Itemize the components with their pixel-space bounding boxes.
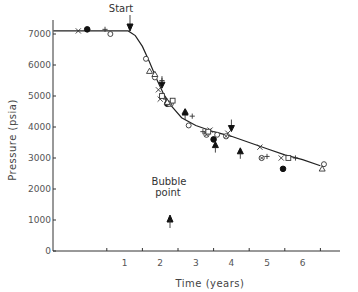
x-tick-label: 5 (264, 258, 270, 268)
filled-circle-marker (280, 166, 286, 172)
y-tick-label: 3000 (28, 153, 51, 163)
filled-circle-marker (84, 27, 90, 33)
x-tick-label: 2 (157, 258, 163, 268)
square-marker (286, 156, 291, 161)
square-marker (160, 94, 165, 99)
y-tick-label: 4000 (28, 122, 51, 132)
plus-marker (293, 155, 298, 160)
arrow-up-marker (237, 148, 243, 154)
start-arrow-head-icon (127, 24, 133, 31)
open-circle-marker (108, 32, 113, 37)
pressure-vs-time-chart: 01000200030004000500060007000123456 Time… (0, 0, 358, 292)
bubble-point-label-line2: point (155, 187, 181, 198)
cross-marker (156, 87, 161, 92)
y-tick-label: 7000 (28, 29, 51, 39)
open-circle-marker (215, 132, 220, 137)
y-tick-label: 6000 (28, 60, 51, 70)
square-marker (206, 129, 211, 134)
y-axis-label: Pressure (psia) (7, 99, 18, 181)
open-circle-marker (186, 123, 191, 128)
plus-marker (190, 114, 195, 119)
open-circle-marker (143, 56, 148, 61)
fitted-curve-path (53, 31, 320, 166)
data-points (76, 27, 327, 172)
y-tick-label: 0 (45, 246, 51, 256)
x-tick-label: 3 (193, 258, 199, 268)
axes: 01000200030004000500060007000123456 (28, 20, 340, 268)
fitted-curve (53, 31, 320, 166)
arrow-down-marker (228, 126, 234, 132)
bubble-point-label-line1: Bubble (152, 176, 187, 187)
plus-marker (264, 154, 269, 159)
y-tick-label: 1000 (28, 215, 51, 225)
cross-marker (279, 155, 284, 160)
triangle-marker (147, 68, 153, 73)
x-tick-label: 4 (229, 258, 235, 268)
start-label: Start (109, 3, 134, 14)
x-tick-label: 6 (300, 258, 306, 268)
square-marker (170, 98, 175, 103)
x-axis-label: Time (years) (175, 278, 245, 289)
y-tick-label: 2000 (28, 184, 51, 194)
x-tick-label: 1 (122, 258, 128, 268)
y-tick-label: 5000 (28, 91, 51, 101)
triangle-marker (152, 71, 158, 76)
